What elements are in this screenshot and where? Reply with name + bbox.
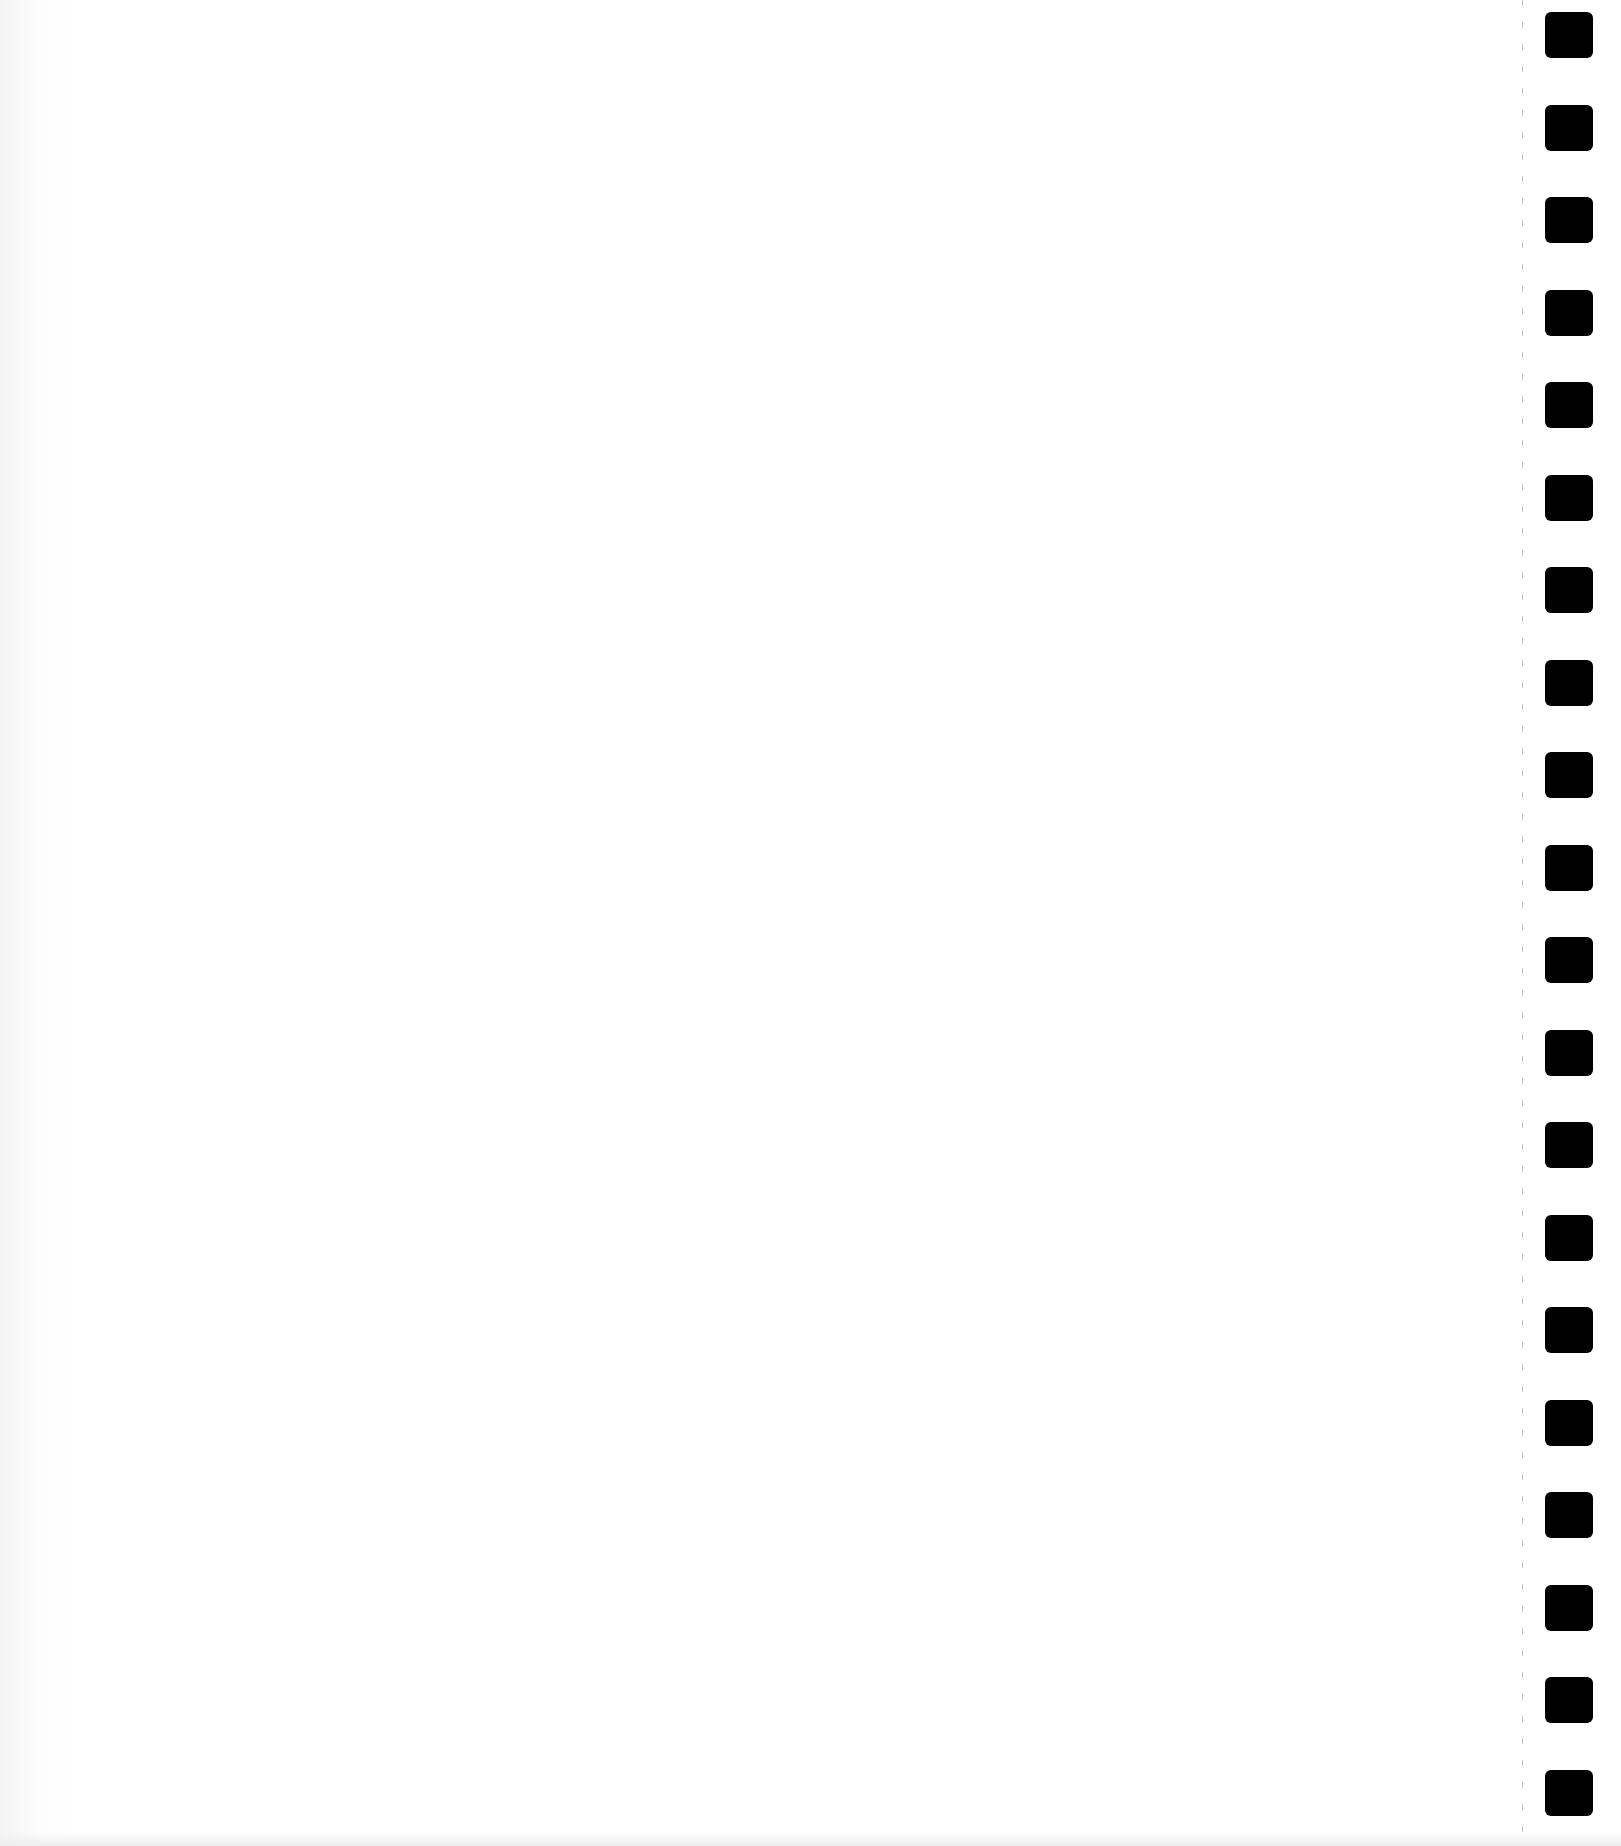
- binding-hole: [1545, 1585, 1593, 1631]
- binding-hole: [1545, 752, 1593, 798]
- binding-hole: [1545, 1400, 1593, 1446]
- binding-hole: [1545, 1030, 1593, 1076]
- binding-hole: [1545, 937, 1593, 983]
- binding-hole: [1545, 845, 1593, 891]
- binding-hole: [1545, 1215, 1593, 1261]
- binding-hole: [1545, 12, 1593, 58]
- binding-hole: [1545, 197, 1593, 243]
- binding-hole: [1545, 475, 1593, 521]
- binding-hole: [1545, 382, 1593, 428]
- binding-hole: [1545, 1122, 1593, 1168]
- binding-hole: [1545, 290, 1593, 336]
- binding-hole: [1545, 105, 1593, 151]
- binding-hole: [1545, 1307, 1593, 1353]
- perforation-line: [1522, 0, 1523, 1846]
- binding-hole: [1545, 1677, 1593, 1723]
- binding-hole: [1545, 1770, 1593, 1816]
- binding-hole: [1545, 1492, 1593, 1538]
- binding-hole: [1545, 660, 1593, 706]
- binding-holes: [1545, 0, 1595, 1846]
- binding-hole: [1545, 567, 1593, 613]
- blank-page: [0, 0, 1621, 1846]
